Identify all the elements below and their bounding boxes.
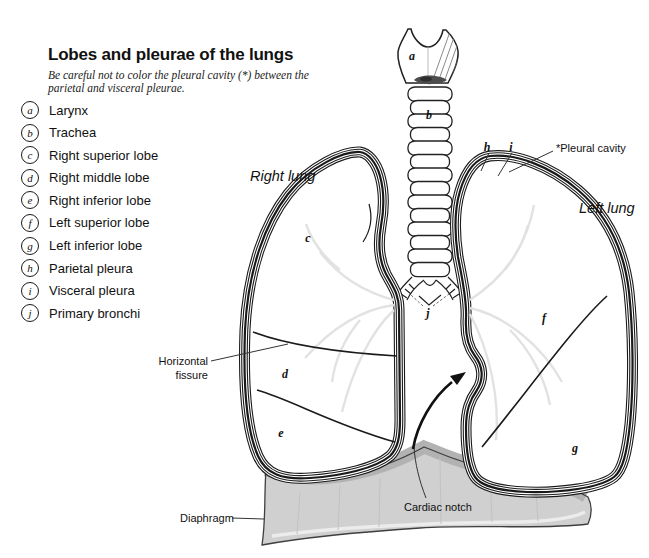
primary-bronchi-shape [398,277,462,305]
left-lung-label: Left lung [579,200,635,216]
cardiac-notch-arrow [413,372,466,449]
right-lung-shape [245,152,400,478]
marker-g-left-inferior: g [571,441,578,455]
coloring-book-page: Lobes and pleurae of the lungs Be carefu… [0,0,649,558]
marker-a-larynx: a [409,49,415,63]
marker-j-primary-bronchi: j [424,306,430,320]
leader-diaphragm [232,518,264,519]
marker-c-right-superior: c [305,231,311,245]
marker-h-parietal-pleura: h [484,140,491,154]
pleural-cavity-label: *Pleural cavity [556,142,626,154]
right-lung-label: Right lung [250,168,315,184]
cardiac-notch-label: Cardiac notch [404,501,472,513]
lungs-diagram: a b c d e f g h i j Right lung Left lung… [0,0,649,558]
marker-d-right-middle: d [282,367,289,381]
marker-b-trachea: b [426,108,432,122]
diaphragm-label: Diaphragm [180,512,234,524]
horizontal-fissure-label-line2: fissure [176,369,208,381]
marker-e-right-inferior: e [278,426,284,440]
horizontal-fissure-label-line1: Horizontal [158,355,208,367]
